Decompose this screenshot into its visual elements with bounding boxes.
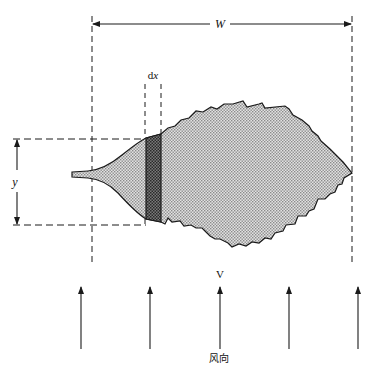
width-label: W bbox=[215, 17, 226, 31]
wind-direction-label: 风向 bbox=[209, 352, 229, 364]
strip-element-dx bbox=[146, 134, 161, 222]
height-label: y bbox=[11, 175, 18, 189]
strip-width-label: dx bbox=[148, 69, 159, 81]
wind-arrows bbox=[81, 287, 358, 349]
velocity-label: V bbox=[216, 268, 224, 280]
leaf-diagram: W dx y V 风向 bbox=[0, 0, 367, 369]
